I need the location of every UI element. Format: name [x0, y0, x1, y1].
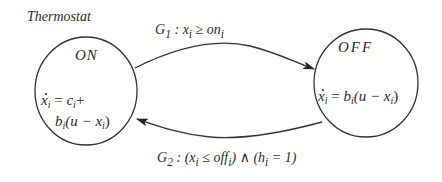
x-dot: x	[41, 93, 48, 108]
transition-g2-guard: G2 : (xi ≤ offi) ∧ (hi = 1)	[157, 151, 296, 168]
transition-g1-arrow	[135, 43, 314, 69]
diagram-title: Thermostat	[27, 10, 91, 24]
state-off-label: OFF	[338, 40, 373, 55]
state-on-dynamics-line1: xi = ci+	[41, 93, 84, 108]
x-dot: x	[318, 89, 325, 104]
transition-g1-guard: G1 : xi ≥ oni	[155, 23, 224, 40]
state-on-label: ON	[75, 48, 98, 63]
transition-g2-arrow	[137, 119, 322, 138]
state-off-dynamics: xi = bi(u − xi)	[318, 89, 398, 104]
state-on-dynamics-line2: bi(u − xi)	[55, 114, 110, 129]
